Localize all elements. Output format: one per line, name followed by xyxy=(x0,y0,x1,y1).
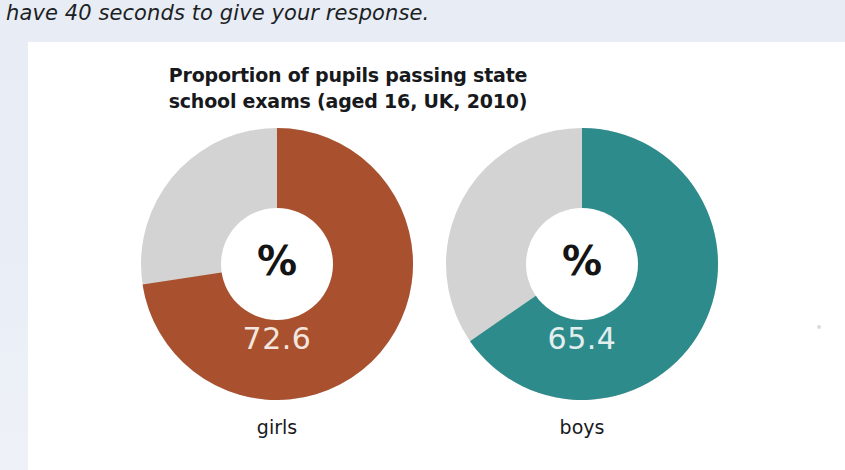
donut-caption-boys: boys xyxy=(437,416,727,438)
donut-hole-boys xyxy=(526,208,638,320)
figure-title: Proportion of pupils passing state schoo… xyxy=(28,62,668,114)
donut-block-girls: % 72.6 girls xyxy=(132,128,422,458)
donut-svg-girls xyxy=(141,128,413,400)
figure-card: Proportion of pupils passing state schoo… xyxy=(28,42,845,470)
donut-chart-row: % 72.6 girls % 65.4 boys xyxy=(28,128,728,468)
donut-caption-girls: girls xyxy=(132,416,422,438)
figure-title-line-2: school exams (aged 16, UK, 2010) xyxy=(28,88,668,114)
donut-chart-girls: % 72.6 xyxy=(141,128,413,400)
running-body-text: have 40 seconds to give your response. xyxy=(6,0,706,28)
donut-hole-girls xyxy=(221,208,333,320)
figure-title-line-1: Proportion of pupils passing state xyxy=(28,62,668,88)
page-speck xyxy=(817,325,821,329)
donut-svg-boys xyxy=(446,128,718,400)
donut-block-boys: % 65.4 boys xyxy=(437,128,727,458)
donut-chart-boys: % 65.4 xyxy=(446,128,718,400)
